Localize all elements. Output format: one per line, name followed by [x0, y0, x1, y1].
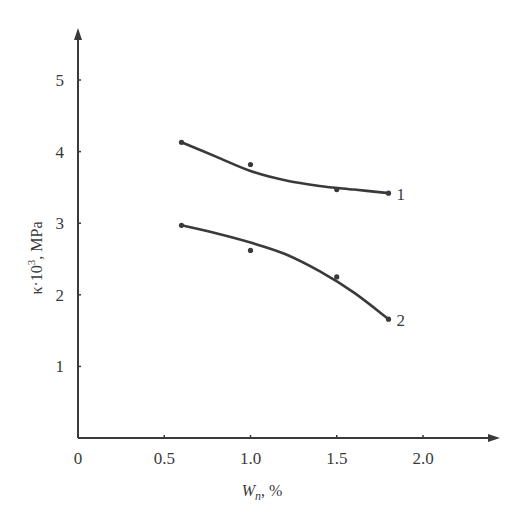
axes	[74, 28, 500, 442]
x-axis-title: Wn, %	[242, 482, 283, 503]
x-tick-label: 1.0	[240, 449, 261, 468]
y-tick-label: 2	[56, 286, 65, 305]
series-2-point	[386, 317, 391, 322]
y-tick-label: 4	[56, 143, 65, 162]
y-tick-label: 1	[56, 357, 65, 376]
y-tick-label: 3	[56, 214, 65, 233]
series-1-label: 1	[397, 185, 406, 204]
x-tick-label: 0.5	[154, 449, 175, 468]
chart: 00.51.01.52.012345 12 Wn, % κ·103, MPa	[0, 0, 520, 519]
series-1-point	[386, 191, 391, 196]
series-1-point	[179, 140, 184, 145]
series-1-point	[334, 187, 339, 192]
chart-svg: 00.51.01.52.012345 12 Wn, % κ·103, MPa	[0, 0, 520, 519]
y-tick-label: 5	[56, 71, 65, 90]
x-tick-label: 1.5	[326, 449, 347, 468]
series-2-point	[334, 274, 339, 279]
series-2-curve	[182, 225, 389, 319]
series-1-point	[248, 162, 253, 167]
series-2-point	[179, 223, 184, 228]
series-2-label: 2	[397, 311, 406, 330]
y-axis-arrow-icon	[74, 28, 82, 40]
ticks: 00.51.01.52.012345	[56, 71, 434, 468]
series-2-point	[248, 248, 253, 253]
x-axis-arrow-icon	[488, 434, 500, 442]
series-1-curve	[182, 142, 389, 193]
y-axis-title: κ·103, MPa	[25, 221, 45, 294]
x-tick-label: 2.0	[412, 449, 433, 468]
series-group: 12	[179, 140, 405, 330]
x-tick-label: 0	[74, 449, 83, 468]
